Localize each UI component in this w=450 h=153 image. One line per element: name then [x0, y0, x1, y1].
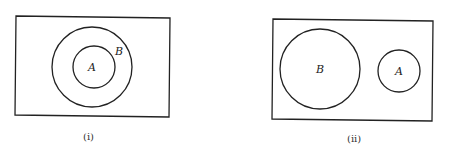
set-a-label: A [394, 65, 403, 78]
universal-set-box [272, 19, 433, 121]
set-a-label: A [87, 61, 96, 74]
venn-diagrams: B A (i) B A (ii) [0, 0, 450, 153]
caption-i: (i) [83, 131, 94, 142]
diagram-ii: B A (ii) [272, 19, 433, 144]
set-b-label: B [114, 45, 123, 58]
diagram-i: B A (i) [15, 16, 170, 142]
caption-ii: (ii) [347, 133, 361, 144]
set-b-label: B [315, 63, 324, 76]
